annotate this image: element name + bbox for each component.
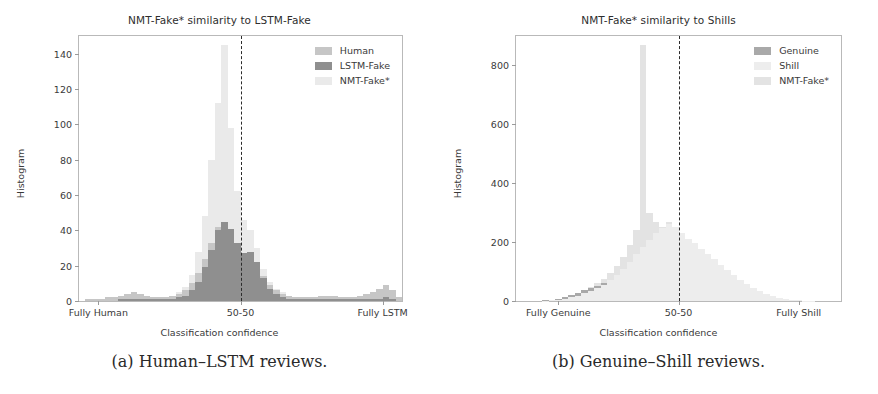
histogram-bar — [389, 299, 396, 301]
y-axis-tick — [75, 160, 79, 161]
y-axis-tick-label: 20 — [60, 260, 72, 271]
y-axis-tick — [75, 266, 79, 267]
y-axis-tick — [75, 54, 79, 55]
legend-swatch — [315, 62, 332, 70]
legend-swatch — [754, 77, 771, 85]
legend-swatch — [754, 62, 771, 70]
chart-title-b: NMT-Fake* similarity to Shills — [439, 14, 878, 26]
plot-area-a: 020406080100120140Fully Human50-50Fully … — [78, 35, 403, 302]
x-axis-tick — [799, 301, 800, 305]
y-axis-tick-label: 140 — [54, 48, 72, 59]
y-axis-tick — [512, 65, 516, 66]
x-axis-label-b: Classification confidence — [439, 327, 878, 338]
y-axis-label-a: Histogram — [15, 149, 26, 198]
y-axis-tick — [75, 301, 79, 302]
x-axis-tick-label: Fully Shill — [776, 307, 821, 318]
plot-area-b: 0200400600800Fully Genuine50-50Fully Shi… — [515, 35, 842, 302]
caption-a: (a) Human–LSTM reviews. — [0, 352, 439, 371]
y-axis-label-b: Histogram — [452, 149, 463, 198]
figure-container: NMT-Fake* similarity to LSTM-Fake Histog… — [0, 0, 878, 394]
x-axis-tick — [679, 301, 680, 305]
y-axis-tick-label: 100 — [54, 119, 72, 130]
legend-label: Shill — [779, 60, 799, 71]
x-axis-tick-label: 50-50 — [227, 307, 255, 318]
histogram-bar — [396, 297, 403, 301]
x-axis-label-a: Classification confidence — [0, 327, 439, 338]
legend-label: Genuine — [779, 45, 819, 56]
y-axis-tick-label: 0 — [503, 296, 509, 307]
x-axis-tick — [241, 301, 242, 305]
legend-item: NMT-Fake* — [315, 75, 390, 86]
y-axis-tick-label: 200 — [491, 237, 509, 248]
legend-item: Human — [315, 45, 390, 56]
legend-swatch — [315, 77, 332, 85]
x-axis-tick-label: Fully Human — [69, 307, 128, 318]
legend-swatch — [754, 47, 771, 55]
x-axis-tick — [383, 301, 384, 305]
y-axis-tick — [75, 195, 79, 196]
y-axis-tick-label: 40 — [60, 225, 72, 236]
x-axis-tick-label: Fully Genuine — [526, 307, 591, 318]
caption-b: (b) Genuine–Shill reviews. — [439, 352, 878, 371]
legend-item: LSTM-Fake — [315, 60, 390, 71]
midline-marker-b — [679, 36, 680, 301]
chart-title-a: NMT-Fake* similarity to LSTM-Fake — [0, 14, 439, 26]
legend-item: Shill — [754, 60, 829, 71]
y-axis-tick — [512, 124, 516, 125]
legend-label: NMT-Fake* — [340, 75, 390, 86]
chart-panel-b: NMT-Fake* similarity to Shills Histogram… — [439, 0, 878, 394]
legend-label: LSTM-Fake — [340, 60, 390, 71]
y-axis-tick-label: 400 — [491, 178, 509, 189]
legend-item: NMT-Fake* — [754, 75, 829, 86]
y-axis-tick — [512, 242, 516, 243]
legend-swatch — [315, 47, 332, 55]
midline-marker-a — [241, 36, 242, 301]
legend-b: GenuineShillNMT-Fake* — [754, 45, 829, 86]
y-axis-tick-label: 60 — [60, 190, 72, 201]
legend-item: Genuine — [754, 45, 829, 56]
y-axis-tick-label: 600 — [491, 119, 509, 130]
chart-panel-a: NMT-Fake* similarity to LSTM-Fake Histog… — [0, 0, 439, 394]
y-axis-tick-label: 120 — [54, 84, 72, 95]
y-axis-tick — [512, 301, 516, 302]
y-axis-tick-label: 800 — [491, 60, 509, 71]
legend-label: Human — [340, 45, 374, 56]
legend-a: HumanLSTM-FakeNMT-Fake* — [315, 45, 390, 86]
y-axis-tick-label: 0 — [66, 296, 72, 307]
y-axis-tick — [512, 183, 516, 184]
y-axis-tick-label: 80 — [60, 154, 72, 165]
y-axis-tick — [75, 230, 79, 231]
x-axis-tick-label: 50-50 — [665, 307, 693, 318]
legend-label: NMT-Fake* — [779, 75, 829, 86]
x-axis-tick — [558, 301, 559, 305]
x-axis-tick — [98, 301, 99, 305]
y-axis-tick — [75, 124, 79, 125]
y-axis-tick — [75, 89, 79, 90]
x-axis-tick-label: Fully LSTM — [358, 307, 408, 318]
